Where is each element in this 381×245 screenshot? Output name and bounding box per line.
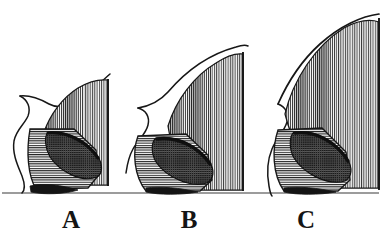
figure-label-a: A [56, 207, 86, 232]
figure-container: A B C [0, 0, 381, 245]
specimen-a [14, 70, 112, 194]
specimen-b [126, 44, 248, 196]
figure-label-b: B [174, 207, 204, 232]
specimen-c [268, 14, 381, 196]
figure-label-c: C [291, 207, 321, 232]
